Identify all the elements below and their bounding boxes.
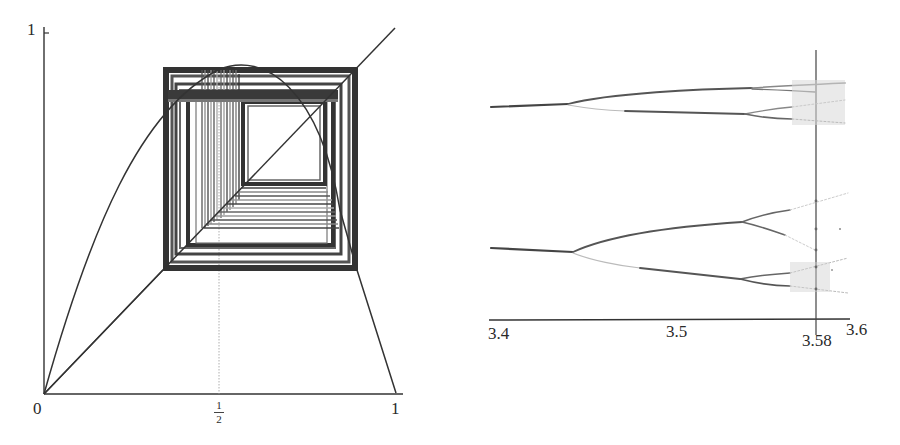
- cobweb-diagram: 1 0 1 2 1: [0, 0, 450, 445]
- half-denominator: 2: [216, 413, 222, 425]
- lower-branch: [491, 193, 848, 293]
- bifurcation-plot: [450, 0, 900, 445]
- bifurcation-diagram: 3.4 3.5 3.58 3.6: [450, 0, 900, 445]
- r-tick-label-3.6: 3.6: [846, 321, 867, 338]
- upper-branch: [491, 80, 845, 125]
- half-numerator: 1: [216, 399, 222, 411]
- parabola-curve: [44, 65, 396, 394]
- x-tick-label-half: 1 2: [214, 400, 224, 425]
- x-tick-label-1: 1: [391, 400, 400, 417]
- cobweb-top-band: [168, 90, 338, 102]
- y-tick-label-1: 1: [27, 21, 36, 38]
- r-tick-label-3.5: 3.5: [666, 323, 687, 340]
- r-tick-label-3.4: 3.4: [488, 325, 509, 342]
- cobweb-plot: [0, 0, 450, 445]
- x-tick-label-0: 0: [33, 400, 42, 417]
- r-axis: [489, 319, 850, 320]
- r-tick-label-3.58: 3.58: [802, 332, 832, 349]
